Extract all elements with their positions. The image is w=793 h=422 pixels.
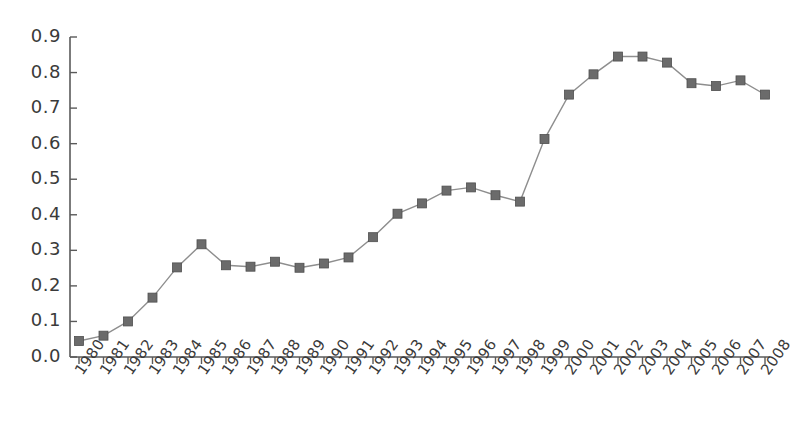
data-point-marker xyxy=(516,197,525,206)
y-tick-label: 0.9 xyxy=(9,25,61,46)
data-point-marker xyxy=(663,58,672,67)
data-point-marker xyxy=(222,261,231,270)
y-tick-label: 0.8 xyxy=(9,61,61,82)
y-tick-label: 0.4 xyxy=(9,203,61,224)
y-tick-label: 0.6 xyxy=(9,132,61,153)
data-point-marker xyxy=(467,183,476,192)
data-point-marker xyxy=(540,135,549,144)
data-point-marker xyxy=(712,82,721,91)
y-tick-label: 0.5 xyxy=(9,167,61,188)
data-point-marker xyxy=(320,259,329,268)
data-point-marker xyxy=(99,331,108,340)
data-point-marker xyxy=(393,209,402,218)
data-point-marker xyxy=(124,317,133,326)
data-point-marker xyxy=(271,257,280,266)
data-point-marker xyxy=(418,199,427,208)
y-tick-label: 0.1 xyxy=(9,309,61,330)
data-point-marker xyxy=(614,52,623,61)
data-point-marker xyxy=(565,90,574,99)
data-point-marker xyxy=(295,263,304,272)
data-point-marker xyxy=(173,263,182,272)
data-point-marker xyxy=(75,337,84,346)
data-point-marker xyxy=(491,191,500,200)
data-series xyxy=(75,52,770,345)
data-point-marker xyxy=(148,293,157,302)
data-point-marker xyxy=(736,76,745,85)
data-point-marker xyxy=(638,52,647,61)
data-point-marker xyxy=(246,262,255,271)
line-chart: 0.00.10.20.30.40.50.60.70.80.9 198019811… xyxy=(0,0,793,422)
y-tick-label: 0.0 xyxy=(9,345,61,366)
y-tick-label: 0.2 xyxy=(9,274,61,295)
data-point-marker xyxy=(369,233,378,242)
data-point-marker xyxy=(197,240,206,249)
data-point-marker xyxy=(761,90,770,99)
y-tick-label: 0.3 xyxy=(9,238,61,259)
data-point-marker xyxy=(687,79,696,88)
data-point-marker xyxy=(442,186,451,195)
y-tick-label: 0.7 xyxy=(9,96,61,117)
data-point-marker xyxy=(344,253,353,262)
data-point-marker xyxy=(589,70,598,79)
